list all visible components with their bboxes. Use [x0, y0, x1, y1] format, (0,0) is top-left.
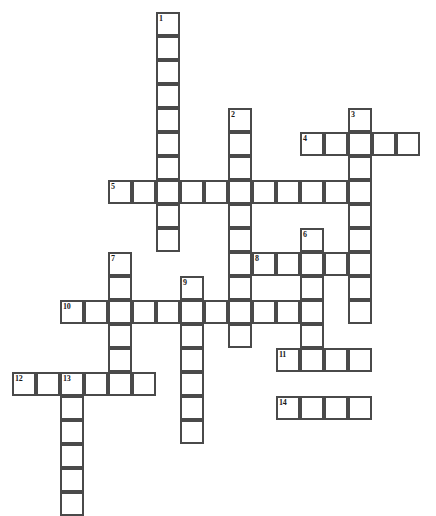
crossword-cell-start-9[interactable]: 9 [180, 276, 204, 300]
crossword-cell[interactable] [228, 204, 252, 228]
crossword-cell[interactable] [300, 396, 324, 420]
crossword-cell[interactable] [228, 300, 252, 324]
clue-number-12: 12 [15, 374, 22, 383]
clue-number-14: 14 [279, 398, 286, 407]
crossword-cell[interactable] [228, 156, 252, 180]
crossword-cell[interactable] [276, 252, 300, 276]
crossword-cell[interactable] [252, 300, 276, 324]
clue-number-2: 2 [231, 110, 235, 119]
crossword-cell-start-8[interactable]: 8 [252, 252, 276, 276]
crossword-cell[interactable] [60, 396, 84, 420]
clue-number-7: 7 [111, 254, 115, 263]
crossword-cell[interactable] [108, 348, 132, 372]
crossword-cell[interactable] [300, 276, 324, 300]
crossword-cell-start-11[interactable]: 11 [276, 348, 300, 372]
clue-number-3: 3 [351, 110, 355, 119]
crossword-cell[interactable] [180, 300, 204, 324]
crossword-cell[interactable] [36, 372, 60, 396]
crossword-cell[interactable] [132, 300, 156, 324]
crossword-cell[interactable] [132, 180, 156, 204]
crossword-cell[interactable] [348, 132, 372, 156]
clue-number-10: 10 [63, 302, 70, 311]
crossword-cell[interactable] [204, 300, 228, 324]
crossword-cell-start-5[interactable]: 5 [108, 180, 132, 204]
crossword-cell[interactable] [348, 180, 372, 204]
crossword-cell[interactable] [348, 396, 372, 420]
crossword-cell[interactable] [300, 324, 324, 348]
crossword-cell-start-1[interactable]: 1 [156, 12, 180, 36]
crossword-cell[interactable] [156, 180, 180, 204]
crossword-cell-start-2[interactable]: 2 [228, 108, 252, 132]
crossword-cell[interactable] [324, 396, 348, 420]
crossword-cell[interactable] [180, 324, 204, 348]
crossword-cell[interactable] [204, 180, 228, 204]
crossword-cell[interactable] [300, 180, 324, 204]
crossword-cell[interactable] [276, 300, 300, 324]
crossword-cell-start-12[interactable]: 12 [12, 372, 36, 396]
crossword-cell[interactable] [156, 156, 180, 180]
crossword-cell[interactable] [156, 108, 180, 132]
crossword-cell[interactable] [156, 60, 180, 84]
clue-number-8: 8 [255, 254, 259, 263]
crossword-cell[interactable] [228, 252, 252, 276]
crossword-cell[interactable] [396, 132, 420, 156]
crossword-cell[interactable] [60, 420, 84, 444]
crossword-cell[interactable] [180, 396, 204, 420]
crossword-cell[interactable] [108, 324, 132, 348]
crossword-cell[interactable] [348, 204, 372, 228]
crossword-cell[interactable] [60, 468, 84, 492]
crossword-cell[interactable] [60, 492, 84, 516]
clue-number-5: 5 [111, 182, 115, 191]
clue-number-9: 9 [183, 278, 187, 287]
crossword-cell[interactable] [228, 276, 252, 300]
crossword-cell[interactable] [228, 324, 252, 348]
crossword-cell[interactable] [348, 228, 372, 252]
crossword-cell[interactable] [300, 252, 324, 276]
crossword-cell-start-3[interactable]: 3 [348, 108, 372, 132]
crossword-cell-start-7[interactable]: 7 [108, 252, 132, 276]
crossword-cell[interactable] [108, 276, 132, 300]
crossword-cell-start-6[interactable]: 6 [300, 228, 324, 252]
crossword-cell[interactable] [156, 36, 180, 60]
crossword-cell[interactable] [228, 132, 252, 156]
crossword-cell[interactable] [180, 180, 204, 204]
crossword-cell[interactable] [228, 180, 252, 204]
crossword-cell[interactable] [252, 180, 276, 204]
crossword-cell-start-10[interactable]: 10 [60, 300, 84, 324]
crossword-cell[interactable] [348, 300, 372, 324]
clue-number-13: 13 [63, 374, 70, 383]
crossword-cell[interactable] [60, 444, 84, 468]
crossword-cell[interactable] [324, 180, 348, 204]
crossword-cell[interactable] [348, 156, 372, 180]
crossword-cell-start-13[interactable]: 13 [60, 372, 84, 396]
crossword-cell[interactable] [84, 300, 108, 324]
crossword-cell[interactable] [180, 348, 204, 372]
crossword-cell[interactable] [108, 372, 132, 396]
crossword-cell[interactable] [324, 132, 348, 156]
crossword-cell[interactable] [132, 372, 156, 396]
crossword-cell[interactable] [324, 252, 348, 276]
clue-number-4: 4 [303, 134, 307, 143]
crossword-cell[interactable] [228, 228, 252, 252]
crossword-cell[interactable] [156, 84, 180, 108]
crossword-cell[interactable] [180, 372, 204, 396]
crossword-cell[interactable] [156, 228, 180, 252]
crossword-cell-start-14[interactable]: 14 [276, 396, 300, 420]
crossword-cell[interactable] [348, 348, 372, 372]
crossword-cell[interactable] [156, 132, 180, 156]
crossword-cell[interactable] [372, 132, 396, 156]
crossword-cell-start-4[interactable]: 4 [300, 132, 324, 156]
crossword-cell[interactable] [84, 372, 108, 396]
crossword-cell[interactable] [156, 300, 180, 324]
crossword-cell[interactable] [108, 300, 132, 324]
crossword-cell[interactable] [180, 420, 204, 444]
crossword-cell[interactable] [348, 276, 372, 300]
clue-number-6: 6 [303, 230, 307, 239]
crossword-cell[interactable] [324, 348, 348, 372]
crossword-cell[interactable] [156, 204, 180, 228]
crossword-cell[interactable] [276, 180, 300, 204]
crossword-cell[interactable] [348, 252, 372, 276]
crossword-cell[interactable] [300, 348, 324, 372]
crossword-cell[interactable] [300, 300, 324, 324]
